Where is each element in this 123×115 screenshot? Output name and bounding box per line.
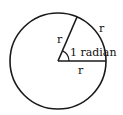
label-radius-upper: r	[57, 33, 63, 46]
label-angle: 1 radian	[70, 46, 117, 59]
radian-diagram: r r 1 radian r	[0, 0, 123, 115]
angle-arc	[62, 51, 69, 61]
label-radius-lower: r	[78, 64, 84, 77]
label-arc: r	[99, 22, 105, 35]
